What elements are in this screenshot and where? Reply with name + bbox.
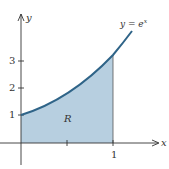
y-tick-label-1: 1 <box>9 110 15 120</box>
y-tick-label-3: 3 <box>9 56 15 66</box>
x-tick-label-1: 1 <box>111 150 117 160</box>
graph-figure: y x 3 2 1 1 R y = ex <box>0 0 169 169</box>
curve-label-exponent: x <box>144 17 147 24</box>
curve-label-base: y = e <box>120 19 144 29</box>
x-axis-label: x <box>161 138 167 148</box>
region-label: R <box>64 114 72 124</box>
curve-label: y = ex <box>120 18 147 29</box>
y-axis-label: y <box>26 13 32 23</box>
y-tick-label-2: 2 <box>9 83 15 93</box>
